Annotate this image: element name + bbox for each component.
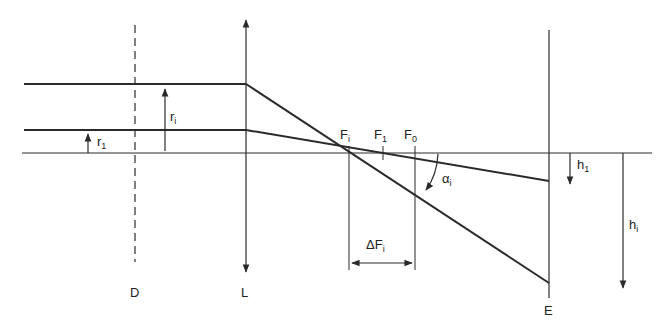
- angle-arc: [426, 154, 438, 190]
- outer-ray-refracted: [246, 84, 549, 283]
- label-fi: Fi: [340, 128, 350, 144]
- label-hi: hi: [629, 218, 638, 234]
- label-h1: h1: [577, 158, 589, 174]
- label-ri: ri: [170, 110, 176, 126]
- label-delta-fi: ΔFi: [366, 238, 385, 254]
- optics-diagram: [0, 0, 668, 326]
- label-f0: F0: [404, 128, 417, 144]
- label-alpha-i: αi: [442, 172, 452, 188]
- label-lens-l: L: [241, 286, 248, 299]
- label-screen-e: E: [544, 304, 553, 317]
- inner-ray-refracted: [246, 130, 549, 181]
- label-r1: r1: [97, 135, 106, 151]
- label-aperture-d: D: [130, 286, 139, 299]
- label-f1: F1: [374, 128, 387, 144]
